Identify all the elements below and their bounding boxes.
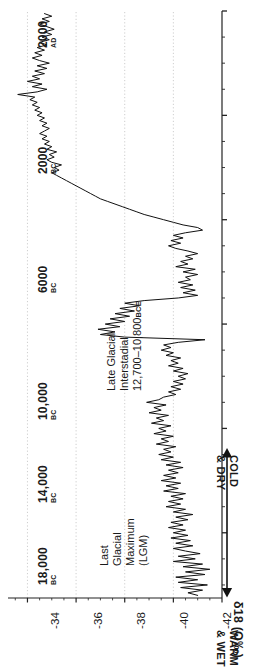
ytick-label-0: -34 [49,612,63,629]
lgi-range: 12,700–10,800 [131,318,143,391]
pole-label-warm: WARM & WET [214,630,240,667]
xtick-5: 18,000 BC [36,547,58,585]
xtick-1-label: 2000 [36,147,50,175]
xtick-0: 2000 AD [36,21,58,49]
lgi-line2: Interstadial [118,301,131,391]
xtick-5-label: 18,000 [36,547,50,585]
lgm-line3: Maximum [124,518,137,566]
pole-cold-line1: COLD [227,455,240,490]
xtick-2: 6000 BC [36,266,58,294]
xtick-4-era: BC [50,465,58,503]
lgi-line3: 12,700–10,800BCE [131,301,144,391]
xtick-4: 14,000 BC [36,465,58,503]
xtick-0-era: AD [50,21,58,49]
lgi-era: BCE [134,301,143,317]
annotation-late-glacial-interstadial: Late Glacial Interstadial 12,700–10,800B… [105,301,144,391]
xtick-2-label: 6000 [36,266,50,294]
ytick-label-1: -36 [92,612,106,629]
xtick-5-era: BC [50,547,58,585]
annotation-last-glacial-maximum: Last Glacial Maximum (LGM) [98,518,150,566]
pole-warm-line2: & WET [214,630,227,667]
lgm-line2: Glacial [111,518,124,566]
pole-warm-line1: WARM [227,630,240,667]
lgi-line1: Late Glacial [105,301,118,391]
xtick-3: 10,000 BC [36,382,58,420]
ytick-label-3: -40 [178,612,192,629]
xtick-0-label: 2000 [36,21,50,49]
xtick-3-era: BC [50,382,58,420]
xtick-1-era: BC [50,147,58,175]
lgm-line4: (LGM) [137,518,150,566]
xtick-2-era: BC [50,266,58,294]
xtick-4-label: 14,000 [36,465,50,503]
lgm-line1: Last [98,518,111,566]
ytick-label-2: -38 [135,612,149,629]
xtick-3-label: 10,000 [36,382,50,420]
pole-cold-line2: & DRY [214,455,227,490]
pole-label-cold: COLD & DRY [214,455,240,490]
xtick-1: 2000 BC [36,147,58,175]
